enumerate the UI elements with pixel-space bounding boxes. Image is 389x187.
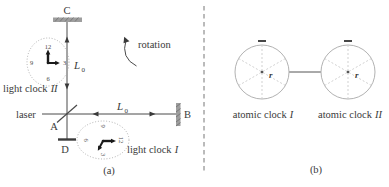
panel-b-caption: (b) bbox=[310, 164, 323, 176]
mirror-c bbox=[53, 18, 82, 23]
rotation-label: rotation bbox=[138, 39, 171, 50]
svg-text:L: L bbox=[73, 59, 80, 71]
clock1-number-12: 12 bbox=[118, 137, 125, 144]
light-clock-1-face: 9 12 3 6 bbox=[77, 121, 129, 159]
clock1-radius-label: r bbox=[269, 70, 273, 80]
clock1-number-6: 6 bbox=[83, 138, 90, 142]
laser-label: laser bbox=[16, 109, 36, 120]
clock2-number-6: 6 bbox=[46, 75, 50, 82]
point-c-label: C bbox=[63, 5, 70, 16]
figure-light-clocks-vs-atomic-clocks: C B D A laser L 0 L 0 bbox=[0, 0, 389, 187]
light-left-arrow-icon bbox=[93, 112, 99, 117]
clock2-center-dot bbox=[347, 71, 350, 74]
atomic-clock-1: r bbox=[235, 41, 289, 99]
panel-a-caption: (a) bbox=[103, 165, 115, 177]
svg-text:L: L bbox=[116, 100, 123, 112]
panel-b: r atomic clockI r atomic clockII (b) bbox=[233, 41, 383, 176]
clock2-number-3: 3 bbox=[63, 59, 66, 66]
panel-a: C B D A laser L 0 L 0 bbox=[3, 5, 191, 177]
rotation-arrow-icon bbox=[124, 37, 137, 66]
clock2-number-9: 9 bbox=[30, 59, 33, 66]
light-clock-2-label: light clockII bbox=[3, 83, 58, 94]
point-a-label: A bbox=[50, 121, 58, 132]
clock1-hands-icon bbox=[98, 139, 116, 151]
atomic-clock-2-label: atomic clockII bbox=[318, 109, 382, 120]
arm-length-label-horizontal: L 0 bbox=[116, 100, 129, 115]
svg-text:0: 0 bbox=[125, 107, 129, 115]
clock1-center-dot bbox=[261, 71, 264, 74]
clock1-number-9: 9 bbox=[100, 124, 107, 127]
atomic-clock-2: r bbox=[321, 41, 375, 99]
light-down-arrow-icon bbox=[65, 84, 70, 90]
clock1-number-3: 3 bbox=[100, 153, 107, 156]
arm-length-label-vertical: L 0 bbox=[73, 59, 86, 74]
clock2-hands-icon bbox=[46, 50, 60, 66]
clock2-radius-label: r bbox=[355, 70, 359, 80]
svg-text:0: 0 bbox=[82, 66, 86, 74]
light-right-arrow-icon bbox=[150, 112, 156, 117]
light-clock-1-label: light clockI bbox=[127, 144, 179, 155]
light-up-arrow-icon bbox=[65, 37, 70, 43]
point-d-label: D bbox=[61, 144, 69, 155]
atomic-clock-1-label: atomic clockI bbox=[233, 109, 294, 120]
point-b-label: B bbox=[184, 109, 191, 120]
clock2-number-12: 12 bbox=[45, 43, 52, 50]
mirror-b bbox=[176, 103, 181, 126]
light-clock-2-face: 12 9 3 6 bbox=[27, 38, 69, 86]
